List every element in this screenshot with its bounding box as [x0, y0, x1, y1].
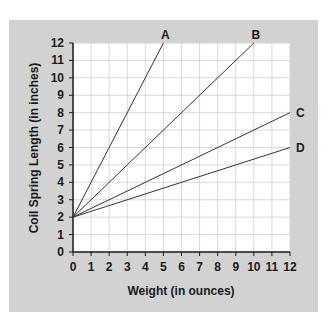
x-tick-label: 6: [178, 260, 185, 274]
y-tick-label: 5: [57, 158, 64, 172]
x-tick-label: 2: [106, 260, 113, 274]
y-axis-label: Coil Spring Length (in inches): [27, 63, 41, 234]
y-tick-label: 9: [57, 88, 64, 102]
y-tick-label: 8: [57, 106, 64, 120]
series-label-c: C: [296, 106, 305, 120]
x-tick-label: 7: [196, 260, 203, 274]
x-tick-label: 0: [70, 260, 77, 274]
x-tick-label: 3: [124, 260, 131, 274]
x-tick-label: 8: [214, 260, 221, 274]
x-axis-ticks: 0123456789101112: [70, 252, 297, 274]
x-tick-label: 5: [160, 260, 167, 274]
x-tick-label: 11: [266, 260, 279, 274]
y-tick-label: 6: [57, 141, 64, 155]
x-tick-label: 9: [232, 260, 239, 274]
line-chart: 0123456789101112 0123456789101112 ABCD W…: [0, 0, 332, 324]
y-axis-ticks: 0123456789101112: [51, 36, 73, 259]
x-axis-label: Weight (in ounces): [127, 284, 234, 298]
x-tick-label: 10: [247, 260, 261, 274]
series-label-b: B: [251, 28, 260, 42]
y-tick-label: 12: [51, 36, 65, 50]
x-tick-label: 1: [88, 260, 95, 274]
y-tick-label: 2: [57, 210, 64, 224]
series-label-d: D: [296, 141, 305, 155]
y-tick-label: 11: [51, 53, 64, 67]
y-tick-label: 4: [57, 175, 64, 189]
x-tick-label: 12: [283, 260, 297, 274]
series-label-a: A: [161, 28, 170, 42]
y-tick-label: 3: [57, 193, 64, 207]
x-tick-label: 4: [142, 260, 149, 274]
y-tick-label: 0: [57, 245, 64, 259]
y-tick-label: 10: [51, 71, 65, 85]
y-tick-label: 7: [57, 123, 64, 137]
y-tick-label: 1: [57, 228, 64, 242]
